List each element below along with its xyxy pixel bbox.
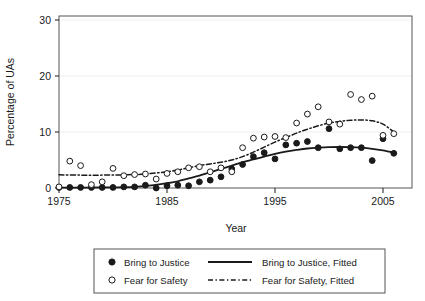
data-point xyxy=(240,145,246,151)
y-tick-label-30: 30 xyxy=(39,14,51,26)
data-point xyxy=(153,185,159,191)
data-point xyxy=(99,179,105,185)
data-point xyxy=(261,134,267,140)
data-point xyxy=(240,162,246,168)
data-point xyxy=(56,184,62,190)
data-point xyxy=(164,171,170,177)
data-point xyxy=(283,142,289,148)
data-point xyxy=(294,140,300,146)
data-point xyxy=(369,158,375,164)
data-point xyxy=(89,182,95,188)
data-point xyxy=(197,179,203,185)
chart-figure: 0102030 1975198519952005 Percentage of U… xyxy=(0,0,425,301)
data-point xyxy=(186,183,192,189)
data-point xyxy=(348,92,354,98)
legend-label-fear-for-safety-fitted: Fear for Safety, Fitted xyxy=(262,275,354,286)
legend-label-bring-to-justice-fitted: Bring to Justice, Fitted xyxy=(262,257,357,268)
x-axis-title: Year xyxy=(225,222,247,234)
data-point xyxy=(305,139,311,145)
legend-filled-circle-icon xyxy=(109,259,115,265)
data-point xyxy=(380,132,386,138)
data-point xyxy=(369,93,375,99)
data-point xyxy=(78,163,84,169)
data-point xyxy=(229,169,235,175)
data-point xyxy=(218,165,224,171)
data-point xyxy=(153,176,159,182)
x-tick-label-2005: 2005 xyxy=(371,195,395,207)
data-point xyxy=(337,146,343,152)
data-point xyxy=(121,173,127,179)
chart-legend: Bring to Justice Fear for Safety Bring t… xyxy=(94,249,385,293)
legend-label-fear-for-safety: Fear for Safety xyxy=(124,275,188,286)
data-point xyxy=(272,134,278,140)
x-tick-label-1985: 1985 xyxy=(155,195,179,207)
data-point xyxy=(337,121,343,127)
data-point xyxy=(67,185,73,191)
data-point xyxy=(305,111,311,117)
data-point xyxy=(326,126,332,132)
data-point xyxy=(121,184,127,190)
y-axis-title: Percentage of UAs xyxy=(4,58,16,146)
data-point xyxy=(143,182,149,188)
data-point xyxy=(391,131,397,137)
data-point xyxy=(143,171,149,177)
data-point xyxy=(132,172,138,178)
legend-label-bring-to-justice: Bring to Justice xyxy=(124,257,190,268)
data-point xyxy=(218,174,224,180)
data-point xyxy=(326,119,332,125)
data-point xyxy=(261,150,267,156)
y-tick-label-0: 0 xyxy=(45,182,51,194)
data-point xyxy=(348,145,354,151)
data-point xyxy=(78,185,84,191)
data-point xyxy=(110,166,116,172)
y-tick-label-10: 10 xyxy=(39,126,51,138)
data-point xyxy=(175,169,181,175)
data-point xyxy=(67,158,73,164)
data-point xyxy=(207,177,213,183)
y-tick-label-20: 20 xyxy=(39,70,51,82)
data-point xyxy=(132,184,138,190)
data-point xyxy=(110,185,116,191)
data-point xyxy=(197,164,203,170)
data-point xyxy=(391,150,397,156)
data-point xyxy=(99,185,105,191)
data-point xyxy=(272,156,278,162)
data-point xyxy=(315,145,321,151)
data-point xyxy=(207,169,213,175)
x-tick-label-1975: 1975 xyxy=(47,195,71,207)
data-point xyxy=(359,145,365,151)
data-point xyxy=(359,97,365,103)
data-point xyxy=(186,165,192,171)
data-point xyxy=(315,104,321,110)
data-point xyxy=(283,135,289,141)
data-point xyxy=(294,120,300,126)
data-point xyxy=(164,183,170,189)
data-point xyxy=(251,135,257,141)
data-point xyxy=(251,154,257,160)
data-point xyxy=(175,182,181,188)
percentage-of-uas-line-scatter-chart: 0102030 1975198519952005 Percentage of U… xyxy=(0,0,425,301)
x-tick-label-1995: 1995 xyxy=(263,195,287,207)
legend-open-circle-icon xyxy=(109,277,115,283)
